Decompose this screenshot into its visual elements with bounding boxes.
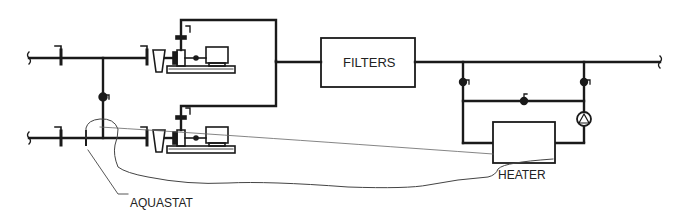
heater-box (493, 122, 555, 163)
aquastat-label: AQUASTAT (130, 196, 193, 210)
piping-diagram: FILTERS HEATER AQUASTAT (0, 0, 691, 219)
heater-label: HEATER (498, 168, 546, 182)
pump-2 (153, 61, 276, 153)
bypass-valve-icon (521, 98, 527, 104)
check-valve-icon (581, 79, 587, 85)
strainer-icon (153, 50, 165, 72)
bottom-suction-line (28, 127, 148, 145)
diagram-canvas (0, 0, 691, 219)
strainer-icon (153, 130, 165, 152)
heater-loop (460, 62, 591, 163)
pump-1 (153, 20, 276, 73)
crossover-line (100, 58, 110, 138)
top-suction-line (28, 46, 148, 64)
filters-label: FILTERS (343, 55, 396, 70)
check-valve-icon (460, 79, 466, 85)
